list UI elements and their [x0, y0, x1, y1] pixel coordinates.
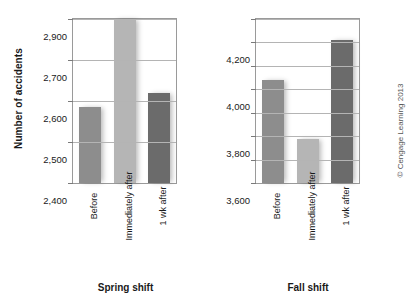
bar	[331, 40, 353, 183]
bar-group-fall	[256, 19, 359, 183]
plot-area-fall: BeforeImmediately after1 wk after Fall s…	[255, 18, 360, 184]
x-axis-label-text: Before	[272, 193, 282, 220]
y-axis-tick	[251, 42, 256, 43]
plot-frame-spring	[72, 18, 177, 184]
y-axis-tick	[251, 113, 256, 114]
copyright-credit: © Cengage Learning 2013	[394, 55, 406, 205]
copyright-credit-text: © Cengage Learning 2013	[397, 83, 406, 177]
bar	[262, 80, 284, 183]
gridline	[256, 89, 359, 90]
bar	[79, 107, 101, 183]
y-axis-tick	[251, 66, 256, 67]
gridline	[256, 42, 359, 43]
gridline	[256, 66, 359, 67]
gridline	[256, 113, 359, 114]
y-axis-tick	[68, 101, 73, 102]
x-axis-label: Before	[72, 204, 106, 276]
x-axis-label: 1 wk after	[141, 204, 175, 276]
y-axis-tick	[251, 183, 256, 184]
gridline	[73, 19, 176, 20]
chart-title-fall: Fall shift	[253, 282, 363, 293]
x-axis-label-text: 1 wk after	[158, 186, 168, 225]
y-axis-title: Number of accidents	[10, 18, 26, 178]
y-axis-tick	[251, 19, 256, 20]
y-axis-tick-label: 2,400	[30, 195, 67, 206]
y-axis-title-text: Number of accidents	[13, 48, 24, 149]
chart-title-spring: Spring shift	[68, 282, 183, 293]
y-axis-tick-label: 2,900	[30, 31, 67, 42]
x-axis-label-text: Immediately after	[124, 171, 134, 240]
y-axis-tick-label: 4,200	[215, 54, 250, 65]
y-axis-tick	[251, 89, 256, 90]
x-axis-labels-spring: BeforeImmediately after1 wk after	[72, 204, 177, 278]
x-axis-label-text: Before	[89, 193, 99, 220]
gridline	[256, 160, 359, 161]
y-axis-tick-label: 4,000	[215, 101, 250, 112]
y-axis-tick	[251, 136, 256, 137]
gridline	[73, 142, 176, 143]
y-axis-tick	[251, 160, 256, 161]
y-axis-tick-label: 2,700	[30, 72, 67, 83]
y-axis-tick	[68, 142, 73, 143]
x-axis-label-text: Immediately after	[307, 171, 317, 240]
y-axis-tick	[68, 19, 73, 20]
gridline	[73, 101, 176, 102]
x-axis-labels-fall: BeforeImmediately after1 wk after	[255, 204, 360, 278]
x-axis-label: 1 wk after	[324, 204, 358, 276]
y-axis-tick	[68, 183, 73, 184]
plot-frame-fall	[255, 18, 360, 184]
x-axis-label: Immediately after	[289, 204, 323, 276]
x-axis-label: Before	[255, 204, 289, 276]
plot-area-spring: BeforeImmediately after1 wk after Spring…	[72, 18, 177, 184]
gridline	[73, 60, 176, 61]
x-axis-label: Immediately after	[106, 204, 140, 276]
y-axis-tick-label: 2,600	[30, 113, 67, 124]
y-axis-tick-label: 3,600	[215, 195, 250, 206]
gridline	[256, 136, 359, 137]
x-axis-label-text: 1 wk after	[341, 186, 351, 225]
figure: Number of accidents BeforeImmediately af…	[0, 0, 406, 301]
gridline	[256, 19, 359, 20]
bar	[148, 93, 170, 183]
y-axis-tick-label: 3,800	[215, 148, 250, 159]
y-axis-tick	[68, 60, 73, 61]
y-axis-tick-label: 2,500	[30, 154, 67, 165]
